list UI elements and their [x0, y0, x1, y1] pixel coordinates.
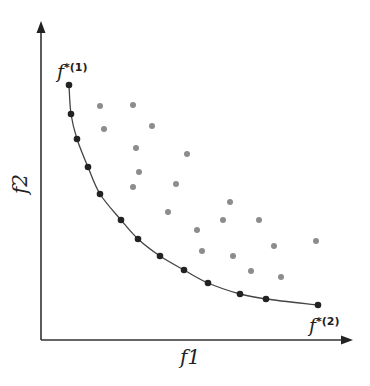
pareto-point: [74, 136, 81, 143]
pareto-front-diagram: f*(1) f*(2) f1 f2: [0, 0, 370, 386]
dominated-point: [97, 103, 103, 109]
dominated-point: [194, 227, 200, 233]
pareto-point: [68, 111, 75, 118]
dominated-point: [313, 238, 319, 244]
pareto-point: [157, 253, 164, 260]
dominated-point: [256, 217, 262, 223]
ideal-point-1-label: f*(1): [57, 60, 88, 82]
pareto-point: [118, 217, 125, 224]
dominated-point: [271, 243, 277, 249]
dominated-point: [136, 169, 142, 175]
y-axis-label: f2: [8, 174, 32, 194]
ideal-point-1-superscript: *(1): [64, 61, 87, 74]
pareto-point: [263, 296, 270, 303]
ideal-point-2-base: f: [309, 314, 316, 336]
pareto-point: [135, 236, 142, 243]
dominated-points: [97, 102, 319, 280]
dominated-point: [248, 268, 254, 274]
dominated-point: [133, 145, 139, 151]
x-axis-arrow-icon: [341, 336, 353, 345]
dominated-point: [101, 126, 107, 132]
ideal-point-1-base: f: [57, 60, 64, 82]
dominated-point: [227, 199, 233, 205]
pareto-front-curve: [69, 85, 318, 305]
dominated-point: [173, 181, 179, 187]
pareto-point: [315, 302, 322, 309]
pareto-front-points: [66, 82, 322, 309]
dominated-point: [278, 274, 284, 280]
dominated-point: [130, 184, 136, 190]
dominated-point: [220, 217, 226, 223]
pareto-point: [85, 164, 92, 171]
pareto-point: [181, 267, 188, 274]
dominated-point: [130, 102, 136, 108]
ideal-point-2-superscript: *(2): [316, 315, 339, 328]
ideal-point-2-label: f*(2): [309, 314, 340, 336]
x-axis-label: f1: [180, 345, 200, 369]
pareto-point: [205, 280, 212, 287]
y-axis-arrow-icon: [37, 21, 46, 33]
pareto-point: [237, 291, 244, 298]
dominated-point: [230, 253, 236, 259]
pareto-point: [66, 82, 73, 89]
dominated-point: [199, 248, 205, 254]
dominated-point: [149, 123, 155, 129]
pareto-point: [97, 191, 104, 198]
dominated-point: [165, 209, 171, 215]
dominated-point: [184, 151, 190, 157]
